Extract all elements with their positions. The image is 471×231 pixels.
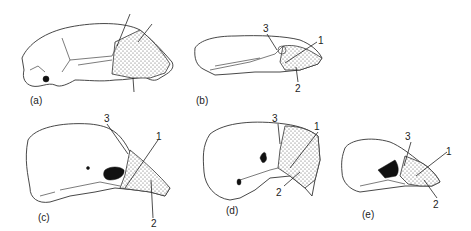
caption-c: (c) — [38, 212, 50, 223]
panel-d-skull: 3 1 2 (d) — [203, 113, 320, 216]
ear-opening-d — [237, 179, 241, 185]
caption-a: (a) — [30, 95, 42, 106]
skull-diagram: (a) 3 1 2 (b) 3 1 2 (c) — [0, 0, 471, 231]
label-e-3: 3 — [405, 131, 411, 142]
label-e-1: 1 — [446, 146, 452, 157]
label-c-2: 2 — [151, 218, 157, 229]
label-b-2: 2 — [295, 83, 301, 94]
leader-line-a3 — [133, 78, 134, 92]
panel-a-skull: (a) — [22, 14, 173, 106]
label-d-3: 3 — [272, 113, 278, 124]
panel-e-skull: 3 1 2 (e) — [342, 131, 452, 220]
caption-e: (e) — [362, 209, 374, 220]
label-c-1: 1 — [156, 131, 162, 142]
caption-d: (d) — [226, 205, 238, 216]
panel-b-skull: 3 1 2 (b) — [195, 23, 324, 106]
label-d-1: 1 — [314, 121, 320, 132]
label-e-2: 2 — [433, 199, 439, 210]
label-b-1: 1 — [318, 35, 324, 46]
label-d-2: 2 — [276, 187, 282, 198]
caption-b: (b) — [196, 95, 208, 106]
panel-c-skull: 3 1 2 (c) — [26, 113, 170, 229]
label-b-3: 3 — [263, 23, 269, 34]
ear-opening-a — [43, 76, 49, 82]
label-c-3: 3 — [104, 113, 110, 124]
